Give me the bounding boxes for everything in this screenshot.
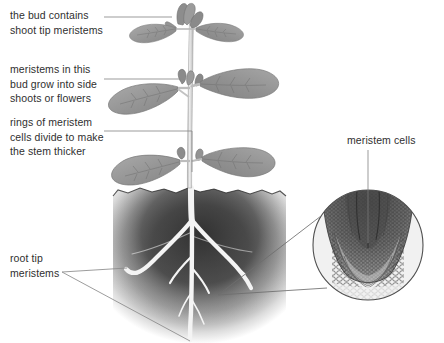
- diagram-svg: [0, 0, 444, 343]
- shoot-tip-meristems-label: the bud contains shoot tip meristems: [10, 8, 103, 37]
- meristem-cells-label: meristem cells: [347, 133, 416, 148]
- diagram-canvas: the bud contains shoot tip meristems mer…: [0, 0, 444, 343]
- leaf-pair-lower: [112, 148, 275, 185]
- stem-thickening-label: rings of meristem cells divide to make t…: [10, 115, 104, 159]
- root-tip-meristems-label: root tip meristems: [10, 251, 59, 280]
- soil-mass: [108, 186, 292, 343]
- plant-stem: [187, 16, 193, 188]
- leaf-pair-top: [130, 23, 244, 42]
- axillary-bud-label: meristems in this bud grow into side sho…: [10, 62, 97, 106]
